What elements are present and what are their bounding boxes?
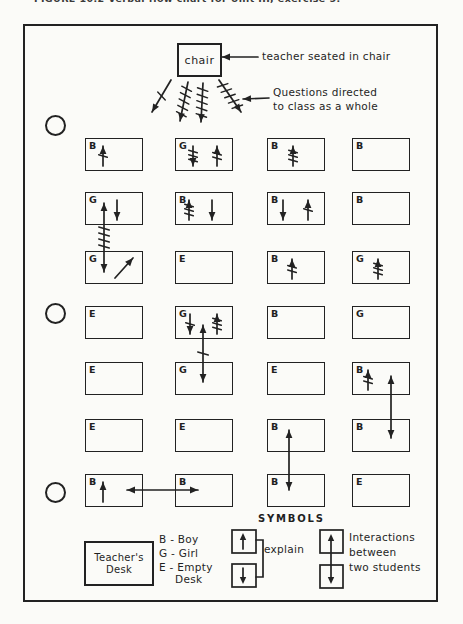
desk-letter: B [271,308,278,319]
chair-box: chair [177,43,222,77]
desk-letter: B [356,364,363,375]
desk-letter: B [271,253,278,264]
explain-symbol-icon [230,527,270,591]
desk-r1c1: B [85,138,143,171]
interactions-label-line1: Interactions [349,531,415,543]
teachers-desk-box: Teacher's Desk [84,541,154,586]
teachers-desk-label-line1: Teacher's [94,552,143,564]
desk-r1c2: G [175,138,233,171]
desk-r1c3: B [267,138,325,171]
symbols-title: SYMBOLS [258,513,325,524]
desk-letter: B [179,194,186,205]
figure-caption: FIGURE 10.2 Verbal flow chart for Unit I… [34,0,364,6]
desk-r5c4: B [352,362,410,395]
desk-letter: B [356,140,363,151]
desk-letter: B [356,421,363,432]
legend-key-empty-line2: Desk [175,573,202,585]
desk-letter: E [89,308,96,319]
desk-letter: E [179,253,186,264]
desk-r2c4: B [352,192,410,225]
teacher-note: teacher seated in chair [262,50,390,62]
desk-letter: B [179,476,186,487]
desk-letter: G [89,253,97,264]
desk-r5c2: G [175,362,233,395]
desk-letter: E [89,364,96,375]
desk-r7c3: B [267,474,325,507]
desk-letter: G [356,308,364,319]
desk-letter: E [89,421,96,432]
desk-r7c1: B [85,474,143,507]
desk-r1c4: B [352,138,410,171]
desk-r6c4: B [352,419,410,452]
desk-r4c4: G [352,306,410,339]
explain-label: explain [264,543,304,555]
chair-label: chair [185,54,215,67]
hole-punch-bottom [45,482,66,503]
legend-key-empty: E - Empty [159,561,213,573]
questions-note-line1: Questions directed [273,86,377,98]
desk-letter: G [179,308,187,319]
desk-r7c4: E [352,474,410,507]
interactions-label-line2: between [349,546,397,558]
questions-note-line2: to class as a whole [273,100,378,112]
interactions-label-line3: two students [349,561,421,573]
legend-key-girl: G - Girl [159,547,198,559]
desk-r5c3: E [267,362,325,395]
desk-letter: G [356,253,364,264]
desk-r3c2: E [175,251,233,284]
desk-r2c3: B [267,192,325,225]
desk-letter: B [271,140,278,151]
hole-punch-top [45,115,66,136]
desk-r4c1: E [85,306,143,339]
desk-letter: G [89,194,97,205]
desk-r3c1: G [85,251,143,284]
desk-letter: B [271,421,278,432]
desk-letter: B [356,194,363,205]
desk-letter: E [356,476,363,487]
desk-r3c3: B [267,251,325,284]
desk-r5c1: E [85,362,143,395]
desk-r7c2: B [175,474,233,507]
desk-r4c2: G [175,306,233,339]
desk-letter: E [271,364,278,375]
desk-letter: G [179,140,187,151]
desk-r6c3: B [267,419,325,452]
desk-letter: B [271,476,278,487]
desk-r6c1: E [85,419,143,452]
desk-r4c3: B [267,306,325,339]
teachers-desk-label-line2: Desk [106,564,132,576]
desk-letter: B [89,476,96,487]
desk-letter: G [179,364,187,375]
hole-punch-middle [45,303,66,324]
desk-r2c2: B [175,192,233,225]
desk-r6c2: E [175,419,233,452]
desk-letter: E [179,421,186,432]
desk-letter: B [89,140,96,151]
desk-r2c1: G [85,192,143,225]
desk-r3c4: G [352,251,410,284]
legend-key-boy: B - Boy [159,533,199,545]
interaction-symbol-icon [318,527,346,591]
desk-letter: B [271,194,278,205]
